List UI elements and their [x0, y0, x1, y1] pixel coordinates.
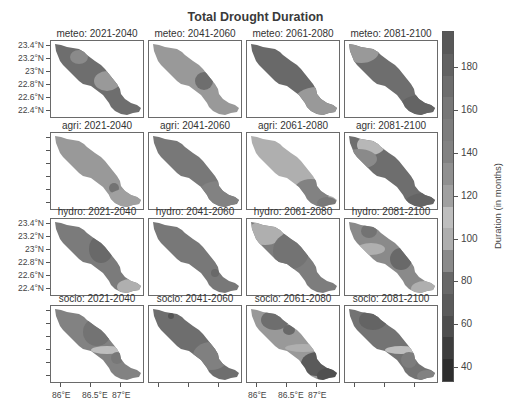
map-panel [50, 305, 144, 383]
y-tick-mark [46, 288, 50, 289]
panel-title: meteo: 2061-2080 [246, 28, 340, 39]
map-panel [148, 132, 242, 210]
x-tick-mark [286, 383, 287, 387]
basin-map [51, 219, 144, 296]
x-tick-label: 86.5°E [278, 390, 304, 400]
panel-title: socio: 2061-2080 [246, 293, 340, 304]
duration-zone [111, 352, 123, 364]
colorbar-segment [443, 54, 453, 76]
y-tick-mark [46, 223, 50, 224]
colorbar-segment [443, 272, 453, 294]
y-tick-mark [46, 71, 50, 72]
y-tick-mark [46, 84, 50, 85]
x-tick-mark [120, 383, 121, 387]
colorbar-tick-label: 60 [461, 318, 472, 329]
panel-title: socio: 2021-2040 [50, 293, 144, 304]
y-tick-label: 22.6°N [8, 92, 44, 102]
y-tick-mark [46, 189, 50, 190]
y-tick-mark [46, 176, 50, 177]
x-tick-mark [90, 383, 91, 387]
colorbar-segment [443, 32, 453, 54]
y-tick-mark [46, 349, 50, 350]
colorbar-tick-mark [454, 110, 458, 111]
colorbar-tick-mark [454, 367, 458, 368]
panel-title: meteo: 2041-2060 [148, 28, 242, 39]
x-tick-mark [384, 383, 385, 387]
y-tick-mark [46, 137, 50, 138]
y-tick-mark [46, 163, 50, 164]
duration-zone [197, 181, 241, 209]
duration-zone [273, 233, 309, 269]
colorbar-segment [443, 294, 453, 316]
basin-fill [149, 306, 242, 383]
map-panel [148, 40, 242, 118]
basin-map [247, 41, 340, 118]
colorbar [442, 31, 454, 382]
colorbar-tick-mark [454, 153, 458, 154]
duration-zone [193, 342, 229, 370]
duration-zone [83, 318, 111, 346]
map-panel [246, 218, 340, 296]
colorbar-tick-label: 100 [461, 233, 478, 244]
chart-title: Total Drought Duration [0, 10, 511, 24]
duration-zone [195, 72, 213, 90]
basin-map [247, 306, 340, 383]
colorbar-tick-label: 140 [461, 147, 478, 158]
panel-title: agri: 2041-2060 [148, 120, 242, 131]
y-tick-label: 23°N [8, 66, 44, 76]
y-tick-mark [46, 236, 50, 237]
colorbar-tick-label: 160 [461, 104, 478, 115]
colorbar-segment [443, 337, 453, 359]
x-tick-mark [316, 383, 317, 387]
basin-map [51, 133, 144, 210]
duration-zone [417, 370, 437, 382]
panel-title: agri: 2021-2040 [50, 120, 144, 131]
basin-map [345, 219, 438, 296]
panel-title: agri: 2061-2080 [246, 120, 340, 131]
y-tick-label: 22.8°N [8, 79, 44, 89]
y-tick-mark [46, 310, 50, 311]
panel-title: agri: 2081-2100 [344, 120, 438, 131]
map-panel [344, 40, 438, 118]
x-tick-mark [188, 383, 189, 387]
y-tick-label: 23.2°N [8, 53, 44, 63]
y-tick-mark [46, 275, 50, 276]
panel-title: meteo: 2021-2040 [50, 28, 144, 39]
panel-title: hydro: 2061-2080 [246, 206, 340, 217]
colorbar-tick-mark [454, 324, 458, 325]
panel-title: socio: 2041-2060 [148, 293, 242, 304]
panel-title: hydro: 2081-2100 [344, 206, 438, 217]
panel-title: hydro: 2041-2060 [148, 206, 242, 217]
y-tick-label: 23.4°N [8, 218, 44, 228]
duration-zone [89, 235, 113, 263]
colorbar-tick-mark [454, 281, 458, 282]
map-panel [50, 40, 144, 118]
y-tick-mark [46, 97, 50, 98]
map-panel [246, 132, 340, 210]
map-panel [148, 305, 242, 383]
colorbar-segment [443, 228, 453, 250]
colorbar-segment [443, 76, 453, 98]
x-tick-label: 86.5°E [82, 390, 108, 400]
duration-zone [94, 71, 120, 91]
x-tick-mark [256, 383, 257, 387]
colorbar-tick-label: 180 [461, 61, 478, 72]
panel-title: meteo: 2081-2100 [344, 28, 438, 39]
map-panel [246, 40, 340, 118]
map-panel [148, 218, 242, 296]
basin-map [149, 41, 242, 118]
basin-map [51, 306, 144, 383]
x-tick-label: 86°E [52, 390, 71, 400]
basin-map [345, 41, 438, 118]
y-tick-mark [46, 202, 50, 203]
y-tick-mark [46, 336, 50, 337]
colorbar-segment [443, 207, 453, 229]
colorbar-segment [443, 163, 453, 185]
colorbar-segment [443, 185, 453, 207]
y-tick-label: 22.4°N [8, 105, 44, 115]
duration-zone [283, 325, 295, 335]
colorbar-tick-mark [454, 196, 458, 197]
basin-map [149, 306, 242, 383]
panel-title: hydro: 2021-2040 [50, 206, 144, 217]
x-tick-label: 87°E [112, 390, 131, 400]
